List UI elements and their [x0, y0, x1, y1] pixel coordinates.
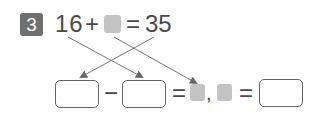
unknown-square-result [190, 84, 205, 101]
minus-sign: − [104, 79, 118, 107]
arrow-square-to-answer [114, 37, 196, 83]
unknown-square-final [217, 84, 232, 101]
equals-sign-1: = [172, 79, 186, 107]
answer-box-2[interactable] [122, 80, 166, 108]
comma: , [206, 79, 212, 107]
equals-sign-2: = [239, 79, 253, 107]
arrow-16-to-second-box [68, 37, 142, 77]
answer-box-1[interactable] [55, 80, 99, 108]
arrow-35-to-first-box [81, 37, 154, 77]
answer-box-3[interactable] [259, 79, 303, 107]
